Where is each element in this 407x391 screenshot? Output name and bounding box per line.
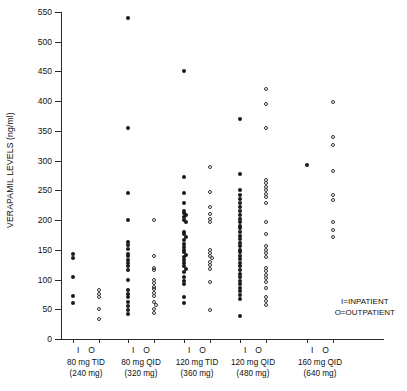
data-point <box>126 295 130 299</box>
data-point <box>238 314 242 318</box>
column-labels-io: IO <box>282 345 358 356</box>
data-point <box>238 172 242 176</box>
x-axis-tick <box>184 339 185 343</box>
y-axis-tick <box>55 71 61 72</box>
data-point <box>331 143 335 147</box>
data-point <box>238 297 242 301</box>
x-axis-tick <box>73 339 74 343</box>
legend: I=INPATIENT O=OUTPATIENT <box>335 296 395 318</box>
data-point <box>126 247 130 251</box>
chart-root: VERAPAMIL LEVELS (ng/ml) 050100150200250… <box>0 0 407 391</box>
y-axis-tick-label: 450 <box>22 67 52 76</box>
y-axis-tick <box>55 12 61 13</box>
group-total-dose-label: (480 mg) <box>215 368 291 379</box>
data-point <box>208 267 212 271</box>
data-point <box>152 311 156 315</box>
data-point <box>182 191 186 195</box>
y-axis-tick <box>55 220 61 221</box>
data-point <box>208 205 212 209</box>
data-point <box>126 16 130 20</box>
data-point <box>97 317 101 321</box>
x-axis-tick <box>210 339 211 343</box>
data-point <box>126 312 130 316</box>
data-point <box>264 195 268 199</box>
data-point <box>126 278 130 282</box>
column-labels-io: IO <box>215 345 291 356</box>
data-point <box>331 220 335 224</box>
x-axis-tick <box>154 339 155 343</box>
data-point <box>182 295 186 299</box>
data-point <box>182 282 186 286</box>
y-axis-tick-label: 200 <box>22 216 52 225</box>
data-point <box>71 275 75 279</box>
x-axis-group-4: IO120 mg QID(480 mg) <box>215 345 291 379</box>
data-point <box>264 255 268 259</box>
data-point <box>305 163 309 167</box>
data-point <box>182 175 186 179</box>
data-point <box>182 69 186 73</box>
data-point <box>126 126 130 130</box>
data-point <box>184 220 188 224</box>
y-axis-tick-label: 350 <box>22 127 52 136</box>
data-point <box>208 308 212 312</box>
y-axis-tick <box>55 250 61 251</box>
data-point <box>331 198 335 202</box>
x-axis-tick <box>99 339 100 343</box>
x-axis-tick <box>333 339 334 343</box>
data-point <box>331 135 335 139</box>
data-point <box>264 286 268 290</box>
data-point <box>331 169 335 173</box>
data-point <box>208 220 212 224</box>
group-dose-label: 160 mg QID <box>282 357 358 368</box>
y-axis-tick-label: 50 <box>22 305 52 314</box>
y-axis-tick <box>55 190 61 191</box>
data-point <box>152 294 156 298</box>
data-point <box>152 268 156 272</box>
group-dose-label: 120 mg QID <box>215 357 291 368</box>
data-point <box>182 270 186 274</box>
data-point <box>264 126 268 130</box>
y-axis-line <box>61 12 62 339</box>
legend-item-inpatient: I=INPATIENT <box>335 296 395 307</box>
data-point <box>208 212 212 216</box>
data-point <box>264 280 268 284</box>
y-axis-tick-label: 300 <box>22 157 52 166</box>
y-axis-tick-label: 0 <box>22 335 52 344</box>
data-point <box>182 301 186 305</box>
data-point <box>264 220 268 224</box>
y-axis-tick <box>55 101 61 102</box>
data-point <box>126 191 130 195</box>
data-point <box>331 235 335 239</box>
data-point <box>238 117 242 121</box>
y-axis-tick-label: 550 <box>22 8 52 17</box>
data-point <box>71 294 75 298</box>
plot-area: 050100150200250300350400450500550 IO80 m… <box>0 0 407 391</box>
data-point <box>126 268 130 272</box>
data-point <box>152 254 156 258</box>
y-axis-tick <box>55 131 61 132</box>
data-point <box>208 165 212 169</box>
data-point <box>264 201 268 205</box>
y-axis-tick <box>55 161 61 162</box>
data-point <box>182 201 186 205</box>
y-axis-tick-label: 500 <box>22 38 52 47</box>
data-point <box>71 256 75 260</box>
y-axis-tick-label: 400 <box>22 97 52 106</box>
data-point <box>238 188 242 192</box>
x-axis-tick <box>307 339 308 343</box>
y-axis-tick-label: 250 <box>22 186 52 195</box>
x-axis-tick <box>128 339 129 343</box>
data-point <box>238 197 242 201</box>
data-point <box>331 100 335 104</box>
y-axis-tick <box>55 280 61 281</box>
data-point <box>208 190 212 194</box>
data-point <box>264 102 268 106</box>
data-point <box>97 295 101 299</box>
data-point <box>264 232 268 236</box>
y-axis-tick-label: 100 <box>22 276 52 285</box>
data-point <box>264 303 268 307</box>
data-point <box>264 87 268 91</box>
group-total-dose-label: (640 mg) <box>282 368 358 379</box>
x-axis-tick <box>266 339 267 343</box>
x-axis-group-5: IO160 mg QID(640 mg) <box>282 345 358 379</box>
